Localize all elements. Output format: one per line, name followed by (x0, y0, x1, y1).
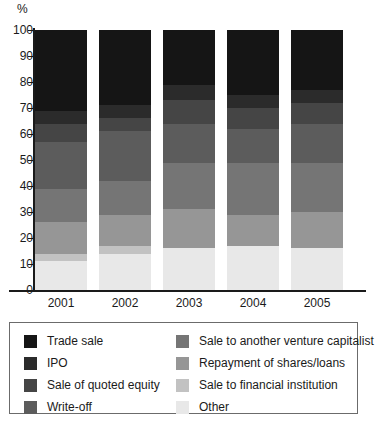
x-tick-label: 2005 (291, 296, 343, 310)
legend-item-label: Sale of quoted equity (47, 379, 160, 392)
bar-segment (163, 209, 215, 248)
legend-swatch-icon (176, 335, 189, 348)
bar-segment (99, 105, 151, 118)
bar-segment (227, 95, 279, 108)
x-tick-label: 2004 (227, 296, 279, 310)
bar-segment (163, 248, 215, 290)
y-tick-mark (28, 30, 34, 31)
bar-segment (227, 129, 279, 163)
x-tick-label: 2002 (99, 296, 151, 310)
legend-swatch-icon (176, 379, 189, 392)
y-tick-mark (28, 264, 34, 265)
bar-2004 (227, 30, 279, 290)
bar-2002 (99, 30, 151, 290)
y-tick-label: 0 (3, 284, 33, 296)
y-axis-unit-label: % (17, 2, 28, 16)
bar-segment (291, 248, 343, 290)
legend-item[interactable]: Sale to another venture capitalist (176, 331, 374, 351)
legend-item-label: Trade sale (47, 335, 103, 348)
bar-2005 (291, 30, 343, 290)
legend-item[interactable]: Trade sale (24, 331, 160, 351)
y-tick-mark (28, 186, 34, 187)
bar-segment (227, 163, 279, 215)
legend-item-label: Sale to financial institution (199, 379, 338, 392)
legend-column-left: Trade saleIPOSale of quoted equityWrite-… (24, 331, 160, 419)
bar-segment (163, 30, 215, 85)
y-tick-mark (28, 238, 34, 239)
legend-swatch-icon (176, 357, 189, 370)
legend-column-right: Sale to another venture capitalistRepaym… (176, 331, 374, 419)
stacked-bar-chart: % 1009080706050403020100 200120022003200… (0, 0, 375, 442)
bar-segment (35, 189, 87, 223)
bar-segment (227, 215, 279, 246)
y-tick-mark (28, 134, 34, 135)
bar-segment (291, 30, 343, 90)
legend-swatch-icon (24, 335, 37, 348)
legend-swatch-icon (24, 357, 37, 370)
legend: Trade saleIPOSale of quoted equityWrite-… (9, 322, 358, 414)
legend-item[interactable]: Sale to financial institution (176, 375, 374, 395)
legend-item[interactable]: Repayment of shares/loans (176, 353, 374, 373)
bar-segment (35, 124, 87, 142)
legend-item-label: Repayment of shares/loans (199, 357, 345, 370)
bar-segment (35, 142, 87, 189)
bar-segment (163, 100, 215, 123)
bar-segment (163, 163, 215, 210)
bar-segment (99, 118, 151, 131)
bar-segment (99, 246, 151, 254)
x-tick-label: 2003 (163, 296, 215, 310)
y-tick-mark (28, 56, 34, 57)
bar-segment (35, 111, 87, 124)
bar-segment (99, 131, 151, 180)
legend-item[interactable]: Sale of quoted equity (24, 375, 160, 395)
bar-segment (291, 124, 343, 163)
bar-segment (291, 163, 343, 212)
legend-item[interactable]: Other (176, 397, 374, 417)
legend-item-label: Other (199, 401, 229, 414)
legend-item-label: Write-off (47, 401, 92, 414)
bar-segment (163, 85, 215, 101)
bar-2003 (163, 30, 215, 290)
legend-item[interactable]: Write-off (24, 397, 160, 417)
bar-segment (163, 124, 215, 163)
bar-segment (227, 108, 279, 129)
bar-2001 (35, 30, 87, 290)
legend-swatch-icon (24, 401, 37, 414)
bar-segment (291, 90, 343, 103)
bar-segment (99, 181, 151, 215)
y-tick-mark (28, 108, 34, 109)
bar-segment (35, 30, 87, 111)
x-axis-line (9, 290, 366, 292)
bar-segment (99, 254, 151, 290)
legend-item-label: Sale to another venture capitalist (199, 335, 374, 348)
legend-item[interactable]: IPO (24, 353, 160, 373)
x-tick-label: 2001 (35, 296, 87, 310)
bar-segment (99, 30, 151, 105)
legend-swatch-icon (176, 401, 189, 414)
bar-segment (291, 103, 343, 124)
bar-segment (227, 30, 279, 95)
bar-segment (99, 215, 151, 246)
y-tick-mark (28, 212, 34, 213)
legend-item-label: IPO (47, 357, 68, 370)
y-tick-mark (28, 160, 34, 161)
bar-segment (35, 222, 87, 253)
bar-segment (227, 246, 279, 290)
bar-segment (35, 254, 87, 262)
y-tick-mark (28, 82, 34, 83)
legend-swatch-icon (24, 379, 37, 392)
bar-segment (291, 212, 343, 248)
bar-segment (35, 261, 87, 290)
